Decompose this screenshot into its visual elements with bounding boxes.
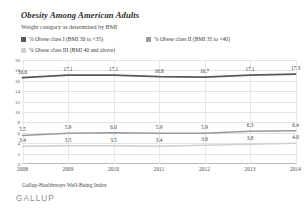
y-tick-label: 20: [15, 58, 20, 63]
data-point-label: 3.5: [65, 137, 71, 143]
data-point-label: 16.8: [154, 68, 163, 74]
chart-legend: % Obese class I (BMI 30 to <35) % Obese …: [21, 36, 300, 58]
legend-item-class-iii[interactable]: % Obese class III (BMI 40 and above): [21, 47, 115, 54]
x-tick-label: 2010: [108, 166, 119, 172]
x-tick-label: 2009: [63, 166, 74, 172]
series-line: [23, 131, 296, 136]
y-tick-label: 16: [15, 78, 20, 83]
data-point-label: 17.1: [245, 66, 254, 72]
legend-label: % Obese class III (BMI 40 and above): [29, 47, 115, 54]
data-point-label: 5.9: [201, 124, 207, 130]
data-point-label: 5.5: [19, 126, 25, 132]
data-point-label: 3.4: [19, 137, 25, 143]
data-point-label: 4.0: [292, 134, 298, 140]
x-tick-label: 2008: [17, 166, 28, 172]
data-point-label: 5.9: [65, 124, 71, 130]
source-note: Gallup-Healthways Well-Being Index: [22, 182, 300, 188]
legend-item-class-ii[interactable]: % Obese class II (BMI 35 to <40): [146, 36, 230, 43]
chart-page: Obesity Among American Adults Weight cat…: [0, 0, 308, 214]
data-point-label: 3.5: [110, 137, 116, 143]
gallup-logo: GALLUP: [16, 194, 300, 203]
data-point-label: 6.3: [247, 122, 253, 128]
y-tick-label: 14: [15, 89, 20, 94]
legend-label: % Obese class I (BMI 30 to <35): [29, 36, 103, 43]
data-point-label: 17.3: [291, 65, 300, 71]
data-point-label: 16.7: [200, 68, 209, 74]
data-point-label: 5.9: [156, 124, 162, 130]
plot-area: 20181614121086420 16.617.117.116.816.717…: [8, 60, 300, 178]
y-axis: 20181614121086420: [8, 60, 21, 164]
y-tick-label: 10: [15, 110, 20, 115]
data-point-label: 6.4: [292, 122, 298, 128]
x-axis: 2008200920102011201220132014: [22, 166, 296, 176]
line-series: [22, 60, 296, 164]
x-tick-label: 2012: [199, 166, 210, 172]
page-subtitle: Weight category as determined by BMI: [21, 23, 300, 31]
data-point-label: 16.6: [18, 69, 27, 75]
x-tick-label: 2011: [154, 166, 165, 172]
page-title: Obesity Among American Adults: [21, 10, 300, 21]
legend-item-class-i[interactable]: % Obese class I (BMI 30 to <35): [21, 36, 103, 43]
series-line: [23, 143, 296, 146]
y-tick-label: 12: [15, 99, 20, 104]
x-tick-label: 2014: [290, 166, 301, 172]
data-point-label: 3.4: [156, 137, 162, 143]
data-point-label: 3.8: [247, 135, 253, 141]
data-point-label: 17.1: [109, 66, 118, 72]
legend-label: % Obese class II (BMI 35 to <40): [154, 36, 230, 43]
y-tick-label: 8: [18, 120, 21, 125]
y-tick-label: 2: [18, 151, 21, 156]
x-tick-label: 2013: [245, 166, 256, 172]
series-line: [23, 74, 296, 78]
data-point-label: 3.6: [201, 136, 207, 142]
legend-swatch-icon: [21, 48, 26, 53]
legend-swatch-icon: [21, 37, 26, 42]
data-point-label: 6.0: [110, 124, 116, 130]
data-point-label: 17.1: [63, 66, 72, 72]
legend-swatch-icon: [146, 37, 151, 42]
